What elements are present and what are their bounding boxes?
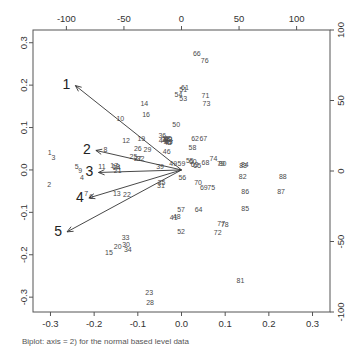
y2-tick-label: -50 (335, 235, 346, 249)
data-point-label: 71 (202, 92, 210, 99)
data-point-label: 88 (279, 173, 287, 180)
data-point-label: 66 (193, 50, 201, 57)
y-tick-label: 0.1 (19, 121, 30, 134)
loading-vector-label: 1 (62, 76, 70, 92)
x2-tick-label: -100 (57, 13, 76, 24)
y-tick-label: 0.3 (19, 36, 30, 49)
data-point-label: 61 (181, 84, 189, 91)
data-point-label: 15 (105, 249, 113, 256)
data-point-label: 22 (123, 191, 131, 198)
y-tick-label: 0.0 (19, 163, 30, 176)
data-point-label: 20 (114, 243, 122, 250)
loading-vector (75, 86, 181, 170)
data-point-label: 59 (178, 160, 186, 167)
y-tick-label: -0.2 (19, 247, 30, 263)
data-point-label: 3 (52, 154, 56, 161)
data-point-label: 7 (84, 190, 88, 197)
x-tick-label: -0.2 (86, 318, 102, 329)
y2-tick-label: 50 (335, 95, 346, 106)
x-tick-label: 0.2 (262, 318, 275, 329)
loading-vector-label: 3 (86, 163, 94, 179)
data-point-label: 70 (194, 179, 202, 186)
data-point-label: 8 (104, 146, 108, 153)
data-point-label: 76 (201, 57, 209, 64)
data-point-label: 50 (172, 121, 180, 128)
loading-vector (67, 170, 181, 232)
data-point-label: 54 (175, 91, 183, 98)
x2-tick-label: 50 (234, 13, 245, 24)
x2-tick-label: 0 (179, 13, 184, 24)
data-point-label: 81 (237, 277, 245, 284)
data-point-label: 48 (173, 213, 181, 220)
data-point-label: 64 (195, 206, 203, 213)
data-point-label: 73 (202, 100, 210, 107)
x2-tick-label: -50 (117, 13, 131, 24)
data-point-label: 23 (145, 289, 153, 296)
x-tick-label: 0.0 (175, 318, 188, 329)
data-point-label: 33 (122, 234, 130, 241)
data-point-label: 52 (177, 228, 185, 235)
data-point-label: 84 (241, 161, 249, 168)
data-point-label: 11 (98, 163, 105, 170)
data-point-label: 24 (113, 164, 121, 171)
data-point-label: 46 (163, 148, 171, 155)
y2-tick-label: -100 (335, 302, 346, 321)
data-point-label: 86 (241, 188, 249, 195)
data-point-label: 34 (124, 246, 132, 253)
data-point-label: 87 (277, 188, 285, 195)
data-point-label: 82 (239, 173, 247, 180)
x-tick-label: 0.1 (219, 318, 232, 329)
data-point-label: 68 (202, 159, 210, 166)
y-tick-label: 0.2 (19, 79, 30, 92)
loading-vector-label: 4 (76, 189, 84, 205)
y2-tick-label: 0 (335, 168, 346, 173)
data-point-label: 28 (146, 299, 154, 306)
loading-vector-label: 2 (83, 141, 91, 157)
loading-vector-label: 5 (54, 223, 62, 239)
data-point-label: 85 (241, 205, 249, 212)
data-point-label: 29 (144, 146, 152, 153)
data-point-label: 67 (199, 135, 207, 142)
x2-tick-label: 100 (289, 13, 305, 24)
data-point-label: 2 (47, 181, 51, 188)
data-point-label: 14 (140, 100, 148, 107)
data-point-label: 75 (207, 184, 215, 191)
data-point-label: 26 (134, 145, 142, 152)
y-tick-label: -0.3 (19, 289, 30, 305)
figure-caption: Biplot: axis = 2) for the normal based l… (22, 337, 189, 346)
loading-vector (99, 170, 182, 173)
data-point-label: 9 (78, 167, 82, 174)
data-point-label: 47 (165, 139, 173, 146)
data-point-label: 12 (122, 137, 130, 144)
data-point-label: 80 (219, 160, 227, 167)
data-point-label: 65 (193, 162, 201, 169)
y2-tick-label: 100 (335, 22, 346, 38)
data-point-label: 62 (191, 135, 199, 142)
x-tick-label: 0.3 (306, 318, 319, 329)
x-tick-label: -0.3 (42, 318, 58, 329)
x-tick-label: -0.1 (130, 318, 146, 329)
y-tick-label: -0.1 (19, 204, 30, 220)
data-point-label: 57 (177, 206, 185, 213)
data-point-label: 78 (221, 221, 229, 228)
data-point-label: 4 (80, 174, 84, 181)
data-point-label: 58 (189, 144, 197, 151)
data-point-label: 56 (178, 174, 186, 181)
data-point-label: 72 (214, 229, 222, 236)
data-point-label: 16 (142, 111, 150, 118)
